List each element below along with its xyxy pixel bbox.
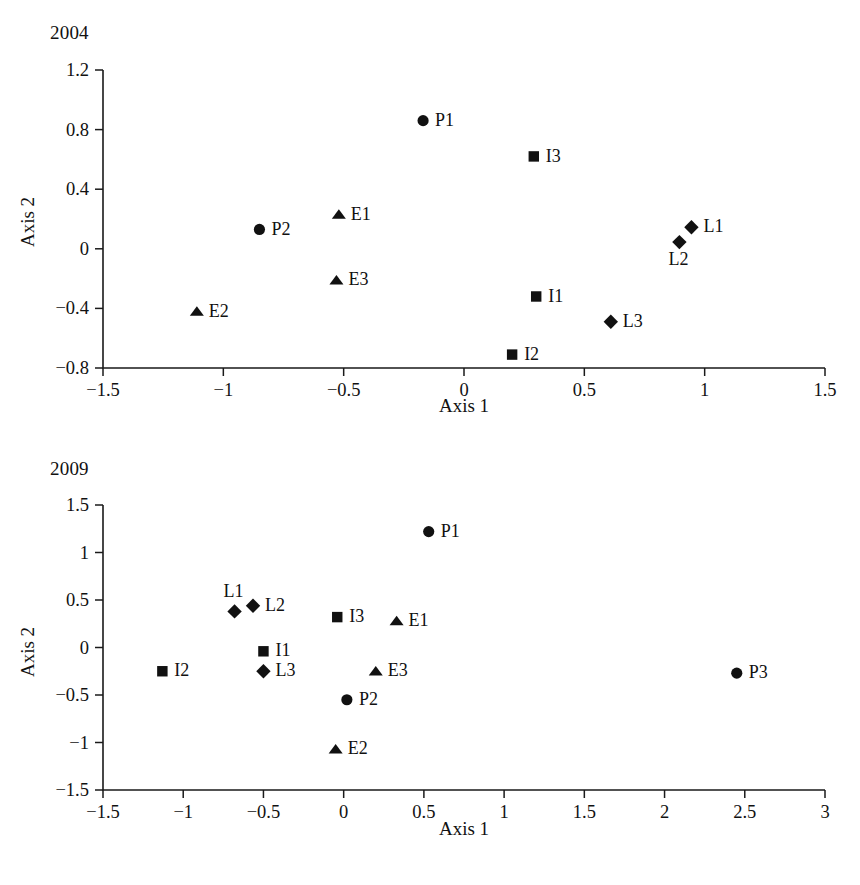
square-marker — [258, 646, 268, 656]
data-point-i2: I2 — [507, 344, 539, 364]
point-label: E3 — [348, 269, 368, 289]
y-tick-label: 0 — [80, 638, 89, 658]
diamond-marker — [684, 220, 698, 234]
point-label: E1 — [351, 204, 371, 224]
diamond-marker — [604, 315, 618, 329]
data-point-l2: L2 — [668, 235, 688, 269]
x-axis-title: Axis 1 — [439, 818, 489, 839]
square-marker — [529, 151, 539, 161]
x-tick-label: 0.5 — [573, 380, 596, 400]
data-point-e2: E2 — [329, 738, 368, 758]
y-tick-label: −0.5 — [55, 685, 89, 705]
y-tick-label: 0.8 — [66, 120, 89, 140]
x-tick-label: 0.5 — [412, 802, 435, 822]
point-label: I1 — [548, 286, 563, 306]
triangle-marker — [190, 306, 204, 316]
circle-marker — [731, 668, 742, 679]
x-tick-label: 0 — [339, 802, 348, 822]
circle-marker — [341, 694, 352, 705]
x-tick-label: −0.5 — [247, 802, 281, 822]
point-label: I2 — [174, 660, 189, 680]
axis-lines — [103, 505, 825, 790]
data-point-i2: I2 — [157, 660, 189, 680]
point-label: I3 — [546, 146, 561, 166]
x-tick-label: 2 — [660, 802, 669, 822]
data-point-p3: P3 — [731, 662, 768, 682]
y-tick-label: −0.4 — [55, 298, 89, 318]
y-tick-label: 1.5 — [66, 495, 89, 515]
point-label: I1 — [275, 640, 290, 660]
point-label: E2 — [209, 301, 229, 321]
data-point-e2: E2 — [190, 301, 229, 321]
x-tick-label: −1 — [173, 802, 193, 822]
point-label: L3 — [623, 311, 643, 331]
square-marker — [332, 612, 342, 622]
data-point-e3: E3 — [369, 660, 408, 680]
y-tick-label: 0.4 — [66, 179, 89, 199]
data-point-e1: E1 — [390, 610, 429, 630]
diamond-marker — [672, 235, 686, 249]
point-label: E3 — [388, 660, 408, 680]
triangle-marker — [332, 209, 346, 219]
y-tick-label: 1 — [80, 543, 89, 563]
data-point-l3: L3 — [256, 660, 295, 680]
x-tick-label: −1.5 — [86, 380, 120, 400]
circle-marker — [418, 115, 429, 126]
figure-canvas: 2004 −0.8−0.400.40.81.2−1.5−1−0.500.511.… — [0, 0, 860, 885]
square-marker — [531, 291, 541, 301]
y-tick-label: −1.5 — [55, 780, 89, 800]
panel-2004: 2004 −0.8−0.400.40.81.2−1.5−1−0.500.511.… — [0, 0, 860, 440]
data-point-p1: P1 — [418, 110, 455, 130]
y-tick-label: −1 — [69, 733, 89, 753]
y-tick-label: 1.2 — [66, 60, 89, 80]
x-axis-title: Axis 1 — [439, 395, 489, 416]
y-tick-label: 0.5 — [66, 590, 89, 610]
x-tick-label: −0.5 — [327, 380, 361, 400]
data-point-e1: E1 — [332, 204, 371, 224]
point-label: L2 — [265, 595, 285, 615]
point-label: L2 — [668, 249, 688, 269]
point-label: I3 — [349, 606, 364, 626]
y-axis-title: Axis 2 — [17, 627, 38, 677]
triangle-marker — [329, 744, 343, 754]
square-marker — [507, 349, 517, 359]
diamond-marker — [256, 664, 270, 678]
y-tick-label: 0 — [80, 239, 89, 259]
point-label: L1 — [224, 581, 244, 601]
data-point-l3: L3 — [604, 311, 643, 331]
data-point-i3: I3 — [332, 606, 364, 626]
data-point-i3: I3 — [529, 146, 561, 166]
data-point-i1: I1 — [531, 286, 563, 306]
scatter-plot-2009: −1.5−1−0.500.511.5−1.5−1−0.500.511.522.5… — [0, 440, 860, 885]
diamond-marker — [227, 604, 241, 618]
data-point-l1: L1 — [684, 216, 723, 236]
scatter-plot-2004: −0.8−0.400.40.81.2−1.5−1−0.500.511.5Axis… — [0, 0, 860, 440]
y-axis-title: Axis 2 — [17, 197, 38, 247]
data-point-p2: P2 — [341, 689, 378, 709]
y-tick-label: −0.8 — [55, 358, 89, 378]
data-point-i1: I1 — [258, 640, 290, 660]
x-tick-label: 1.5 — [813, 380, 836, 400]
triangle-marker — [369, 666, 383, 676]
point-label: P3 — [749, 662, 768, 682]
circle-marker — [423, 526, 434, 537]
data-point-l2: L2 — [246, 595, 285, 615]
square-marker — [157, 666, 167, 676]
point-label: I2 — [524, 344, 539, 364]
x-tick-label: 1 — [700, 380, 709, 400]
point-label: L3 — [275, 660, 295, 680]
point-label: P1 — [435, 110, 454, 130]
x-tick-label: 2.5 — [733, 802, 756, 822]
point-label: E2 — [348, 738, 368, 758]
point-label: P2 — [359, 689, 378, 709]
point-label: L1 — [703, 216, 723, 236]
panel-2009: 2009 −1.5−1−0.500.511.5−1.5−1−0.500.511.… — [0, 440, 860, 885]
x-tick-label: −1.5 — [86, 802, 120, 822]
diamond-marker — [246, 599, 260, 613]
point-label: P1 — [441, 521, 460, 541]
data-point-l1: L1 — [224, 581, 244, 619]
x-tick-label: 1.5 — [573, 802, 596, 822]
triangle-marker — [390, 616, 404, 626]
circle-marker — [254, 224, 265, 235]
data-point-e3: E3 — [329, 269, 368, 289]
